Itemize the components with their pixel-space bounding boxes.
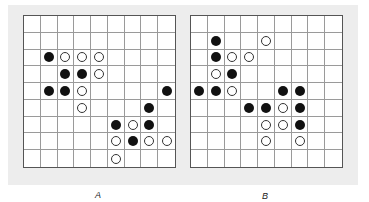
board-cell xyxy=(91,83,108,100)
board-cell xyxy=(141,150,158,167)
board-cell xyxy=(275,33,292,50)
white-stone-icon xyxy=(162,136,172,146)
board-cell xyxy=(225,16,242,33)
board-cell xyxy=(241,150,258,167)
board-cell xyxy=(108,150,125,167)
board-cell xyxy=(41,83,58,100)
black-stone-icon xyxy=(162,86,172,96)
panel-label-b: B xyxy=(262,191,268,201)
board-cell xyxy=(108,66,125,83)
white-stone-icon xyxy=(77,103,87,113)
board-cell xyxy=(208,66,225,83)
white-stone-icon xyxy=(128,120,138,130)
board-cell xyxy=(125,50,142,67)
board-cell xyxy=(24,83,41,100)
black-stone-icon xyxy=(295,120,305,130)
black-stone-icon xyxy=(60,69,70,79)
board-cell xyxy=(191,133,208,150)
board-cell xyxy=(325,133,342,150)
board-cell xyxy=(241,33,258,50)
board-cell xyxy=(58,117,75,134)
board-cell xyxy=(208,16,225,33)
board-cell xyxy=(24,16,41,33)
board-cell xyxy=(24,100,41,117)
board-cell xyxy=(325,150,342,167)
board-cell xyxy=(275,150,292,167)
board-cell xyxy=(125,33,142,50)
board-cell xyxy=(258,50,275,67)
black-stone-icon xyxy=(211,52,221,62)
white-stone-icon xyxy=(278,103,288,113)
board-cell xyxy=(308,66,325,83)
board-cell xyxy=(141,117,158,134)
white-stone-icon xyxy=(295,136,305,146)
board-cell xyxy=(41,117,58,134)
board-cell xyxy=(325,83,342,100)
board-cell xyxy=(91,66,108,83)
board-cell xyxy=(125,117,142,134)
board-cell xyxy=(74,50,91,67)
board-cell xyxy=(24,66,41,83)
board-cell xyxy=(74,117,91,134)
white-stone-icon xyxy=(60,52,70,62)
board-cell xyxy=(292,66,309,83)
board-cell xyxy=(141,16,158,33)
white-stone-icon xyxy=(77,52,87,62)
board-cell xyxy=(141,50,158,67)
black-stone-icon xyxy=(128,136,138,146)
board-cell xyxy=(308,83,325,100)
board-cell xyxy=(24,133,41,150)
board-cell xyxy=(325,16,342,33)
board-cell xyxy=(141,133,158,150)
board-cell xyxy=(158,150,175,167)
black-stone-icon xyxy=(111,120,121,130)
board-cell xyxy=(325,50,342,67)
board-cell xyxy=(91,100,108,117)
white-stone-icon xyxy=(111,154,121,164)
board-cell xyxy=(275,50,292,67)
board-cell xyxy=(74,100,91,117)
board-cell xyxy=(74,33,91,50)
board-cell xyxy=(191,16,208,33)
board-cell xyxy=(325,33,342,50)
white-stone-icon xyxy=(94,52,104,62)
board-cell xyxy=(125,133,142,150)
black-stone-icon xyxy=(211,36,221,46)
board-cell xyxy=(24,50,41,67)
board-cell xyxy=(208,150,225,167)
panel-label-a: A xyxy=(95,190,101,200)
board-cell xyxy=(258,66,275,83)
board-cell xyxy=(91,150,108,167)
board-cell xyxy=(74,83,91,100)
board-cell xyxy=(91,117,108,134)
black-stone-icon xyxy=(227,69,237,79)
white-stone-icon xyxy=(211,69,221,79)
board-cell xyxy=(108,16,125,33)
board-cell xyxy=(141,100,158,117)
board-cell xyxy=(308,100,325,117)
board-cell xyxy=(158,117,175,134)
board-cell xyxy=(308,33,325,50)
board-cell xyxy=(225,33,242,50)
black-stone-icon xyxy=(261,103,271,113)
board-cell xyxy=(225,50,242,67)
white-stone-icon xyxy=(261,36,271,46)
black-stone-icon xyxy=(211,86,221,96)
board-cell xyxy=(275,16,292,33)
board-cell xyxy=(41,133,58,150)
board-cell xyxy=(41,150,58,167)
board-cell xyxy=(41,66,58,83)
board-cell xyxy=(58,16,75,33)
board-cell xyxy=(108,83,125,100)
board-cell xyxy=(125,150,142,167)
board-cell xyxy=(58,66,75,83)
board-cell xyxy=(258,16,275,33)
board-cell xyxy=(292,83,309,100)
board-cell xyxy=(141,33,158,50)
board-cell xyxy=(141,83,158,100)
white-stone-icon xyxy=(111,136,121,146)
board-cell xyxy=(258,150,275,167)
board-cell xyxy=(225,117,242,134)
board-cell xyxy=(158,83,175,100)
board-cell xyxy=(74,66,91,83)
